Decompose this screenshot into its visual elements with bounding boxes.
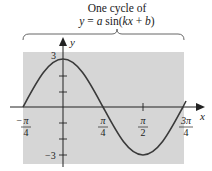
- svg-text:2: 2: [141, 127, 146, 138]
- x-axis-label: x: [199, 110, 205, 122]
- svg-text:4: 4: [101, 127, 106, 138]
- y-tick-3: 3: [51, 50, 56, 61]
- sine-chart: One cycle of y = a sin(kx + b) x y 3 −3 …: [0, 0, 212, 171]
- svg-text:−: −: [16, 115, 23, 126]
- svg-text:4: 4: [24, 127, 29, 138]
- period-brace: [23, 29, 184, 40]
- y-axis-label: y: [69, 36, 75, 48]
- caption-line1: One cycle of: [88, 2, 147, 15]
- y-axis-arrow-icon: [59, 37, 67, 46]
- caption-line2: y = a sin(kx + b): [78, 15, 154, 28]
- svg-text:4: 4: [184, 127, 189, 138]
- svg-text:3π: 3π: [180, 115, 192, 126]
- y-tick-neg3: −3: [45, 150, 56, 161]
